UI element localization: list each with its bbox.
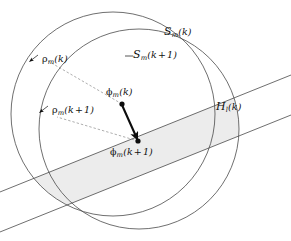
center-point-phi-m-k (119, 101, 124, 106)
label-set-inner: Sm(k + 1) (133, 49, 177, 62)
label-radius-inner: ρm(k + 1) (52, 105, 94, 117)
center-displacement-vector (122, 105, 137, 139)
center-point-phi-m-k-plus-1 (135, 138, 140, 143)
halfspace-lower-boundary-line (0, 111, 291, 236)
diagram-canvas (0, 0, 291, 241)
label-radius-outer: ρm(k) (42, 54, 68, 66)
shaded-strip-region (11, 12, 239, 229)
leader-arrow-rho-m-k (30, 55, 39, 62)
label-center-new: ϕm(k + 1) (110, 147, 153, 159)
label-halfspace: Hl(k) (216, 101, 241, 114)
diagram-figure: Sm(k) Sm(k + 1) ρm(k) ρm(k + 1) ϕm(k) ϕm… (0, 0, 291, 241)
label-set-outer: Sm(k) (164, 26, 192, 39)
radius-line-rho-m-k-plus-1 (57, 117, 138, 141)
label-center-old: ϕm(k) (106, 87, 133, 99)
